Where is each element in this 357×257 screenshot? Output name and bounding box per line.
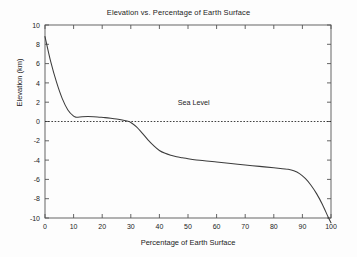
x-tick-label: 60 xyxy=(213,223,221,230)
y-tick-label: -6 xyxy=(34,176,40,183)
chart-figure: Elevation vs. Percentage of Earth Surfac… xyxy=(0,0,357,257)
sea-level-label: Sea Level xyxy=(178,98,210,107)
x-tick-label: 70 xyxy=(241,223,249,230)
y-tick-label: -8 xyxy=(34,195,40,202)
y-tick-label: 6 xyxy=(36,60,40,67)
x-tick-label: 80 xyxy=(270,223,278,230)
y-tick-label: 8 xyxy=(36,41,40,48)
y-tick-label: 0 xyxy=(36,118,40,125)
y-tick-label: -4 xyxy=(34,157,40,164)
plot-area: 01020304050607080901001086420-2-4-6-8-10… xyxy=(0,0,357,257)
x-tick-label: 50 xyxy=(184,223,192,230)
y-tick-label: 2 xyxy=(36,99,40,106)
x-tick-label: 30 xyxy=(127,223,135,230)
x-tick-label: 0 xyxy=(43,223,47,230)
x-tick-label: 100 xyxy=(325,223,337,230)
hypsographic-curve xyxy=(45,37,331,223)
y-tick-label: -10 xyxy=(30,215,40,222)
x-tick-label: 90 xyxy=(299,223,307,230)
y-tick-label: 10 xyxy=(32,22,40,29)
x-tick-label: 10 xyxy=(70,223,78,230)
x-tick-label: 20 xyxy=(98,223,106,230)
annotations: Sea Level xyxy=(178,98,210,107)
x-tick-label: 40 xyxy=(156,223,164,230)
data-series xyxy=(45,37,331,223)
axis-ticks: 01020304050607080901001086420-2-4-6-8-10 xyxy=(30,22,337,230)
y-tick-label: -2 xyxy=(34,137,40,144)
y-tick-label: 4 xyxy=(36,80,40,87)
